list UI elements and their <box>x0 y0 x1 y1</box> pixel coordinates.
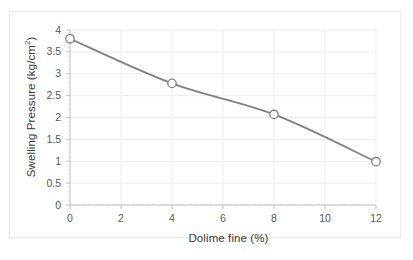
x-axis-label-text: Dolime fine (%) <box>144 232 268 244</box>
svg-text:3.5: 3.5 <box>46 45 61 57</box>
svg-text:3: 3 <box>55 67 61 79</box>
y-axis-label: Swelling Pressure (kg/cm2) <box>23 17 37 197</box>
y-axis-ticks <box>66 30 70 205</box>
y-axis-label-exponent: 2 <box>23 41 32 45</box>
svg-text:4: 4 <box>55 24 61 36</box>
y-tick-labels: 00.511.522.533.54 <box>46 24 61 211</box>
x-tick-labels: 024681012 <box>67 212 382 224</box>
svg-text:0: 0 <box>67 212 73 224</box>
svg-text:0: 0 <box>55 199 61 211</box>
svg-text:8: 8 <box>271 212 277 224</box>
svg-text:1: 1 <box>55 155 61 167</box>
figure: 024681012 00.511.522.533.54 Swelling Pre… <box>0 0 413 260</box>
svg-text:0.5: 0.5 <box>46 177 61 189</box>
svg-text:2: 2 <box>118 212 124 224</box>
line-chart[interactable]: 024681012 00.511.522.533.54 <box>0 0 413 260</box>
svg-text:12: 12 <box>370 212 382 224</box>
svg-text:1.5: 1.5 <box>46 133 61 145</box>
svg-text:2.5: 2.5 <box>46 89 61 101</box>
x-axis-label: Dolime fine (%) <box>0 232 413 244</box>
y-axis-label-container: Swelling Pressure (kg/cm2) <box>0 0 40 215</box>
gridlines <box>70 30 376 205</box>
svg-text:4: 4 <box>169 212 175 224</box>
x-axis-ticks <box>70 205 376 209</box>
svg-text:6: 6 <box>220 212 226 224</box>
y-axis-label-tail: ) <box>25 37 37 41</box>
y-axis-label-text: Swelling Pressure (kg/cm <box>25 45 37 177</box>
svg-text:2: 2 <box>55 111 61 123</box>
svg-text:10: 10 <box>319 212 331 224</box>
